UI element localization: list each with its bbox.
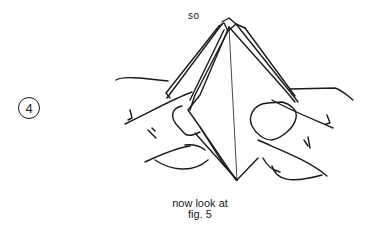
folded-paper-shape <box>166 18 298 180</box>
right-hand <box>251 88 353 180</box>
caption-line-2: fig. 5 <box>150 209 250 220</box>
figure-caption: now look at fig. 5 <box>150 198 250 220</box>
step-number-badge: 4 <box>18 97 40 119</box>
step-number-text: 4 <box>25 102 32 115</box>
top-label: so <box>188 10 200 21</box>
